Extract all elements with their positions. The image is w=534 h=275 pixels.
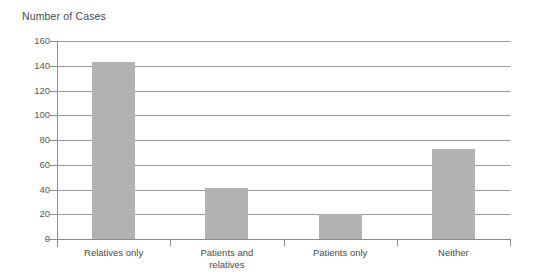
y-axis-label: 140: [8, 60, 50, 71]
y-axis-tick: [50, 239, 57, 240]
bar: [319, 214, 362, 239]
y-axis-tick: [50, 66, 57, 67]
x-axis-tick: [57, 239, 58, 246]
x-axis-tick: [284, 239, 285, 246]
x-axis-category-label: Patients only: [284, 247, 397, 259]
y-axis-tick: [50, 41, 57, 42]
y-axis-label: 100: [8, 109, 50, 120]
y-axis-label: 120: [8, 85, 50, 96]
y-axis-tick: [50, 115, 57, 116]
gridline: [57, 41, 510, 42]
y-axis-label: 160: [8, 35, 50, 46]
y-axis-tick: [50, 140, 57, 141]
bar: [432, 149, 475, 239]
x-axis-category-label: Neither: [397, 247, 510, 259]
bar: [92, 62, 135, 239]
x-axis-category-label: Patients and relatives: [170, 247, 283, 271]
y-axis-label: 0: [8, 233, 50, 244]
y-axis-tick: [50, 91, 57, 92]
y-axis-label: 20: [8, 208, 50, 219]
y-axis-tick: [50, 165, 57, 166]
bar: [205, 188, 248, 239]
x-axis-line: [45, 239, 511, 240]
y-axis-tick: [50, 214, 57, 215]
y-axis-labels: 020406080100120140160: [0, 0, 50, 275]
plot-area: [57, 41, 510, 239]
x-axis-tick: [510, 239, 511, 246]
y-axis-tick: [50, 190, 57, 191]
y-axis-label: 40: [8, 184, 50, 195]
x-axis-tick: [397, 239, 398, 246]
bar-chart: Number of Cases 020406080100120140160 Re…: [0, 0, 534, 275]
x-axis-tick: [170, 239, 171, 246]
x-axis-category-label: Relatives only: [57, 247, 170, 259]
y-axis-label: 80: [8, 134, 50, 145]
y-axis-label: 60: [8, 159, 50, 170]
